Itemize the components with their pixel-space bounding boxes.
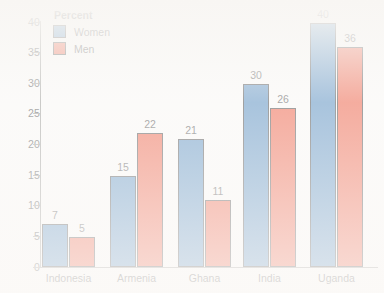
legend-item-men: Men [53, 42, 143, 55]
bar-value: 21 [185, 125, 197, 136]
x-label-ghana: Ghana [178, 272, 231, 284]
bar-women-ghana: 21 [178, 139, 204, 267]
legend-swatch-men [53, 42, 66, 55]
x-label-uganda: Uganda [310, 272, 363, 284]
x-label-armenia: Armenia [110, 272, 163, 284]
bar-women-indonesia: 7 [42, 224, 68, 267]
bar-women-india: 30 [243, 84, 269, 267]
bar-men-uganda: 36 [337, 47, 363, 267]
legend: Percent Women Men [53, 9, 143, 59]
bar-women-uganda: 40 [310, 23, 336, 267]
bar-men-indonesia: 5 [69, 237, 95, 268]
bar-value: 26 [277, 94, 289, 105]
bar-value: 22 [144, 119, 156, 130]
bar-value: 11 [213, 186, 224, 197]
legend-swatch-women [53, 25, 66, 38]
bar-men-armenia: 22 [137, 133, 163, 267]
bar-value: 7 [52, 210, 58, 221]
bar-men-ghana: 11 [205, 200, 231, 267]
x-label-india: India [243, 272, 296, 284]
bar-value: 40 [317, 9, 329, 20]
legend-label-women: Women [74, 26, 110, 38]
legend-title: Percent [54, 9, 143, 21]
bar-women-armenia: 15 [110, 176, 136, 268]
bar-value: 30 [250, 70, 262, 81]
bar-chart: 40 35 30 25 20 15 10 5 [0, 0, 384, 293]
x-label-indonesia: Indonesia [42, 272, 95, 284]
bar-value: 5 [79, 223, 85, 234]
bar-value: 36 [344, 33, 356, 44]
legend-label-men: Men [74, 43, 94, 55]
bar-men-india: 26 [270, 108, 296, 267]
legend-item-women: Women [53, 25, 143, 38]
bar-value: 15 [117, 162, 129, 173]
